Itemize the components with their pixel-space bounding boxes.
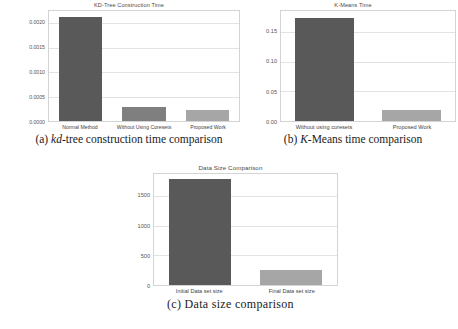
x-tick-labels-a: Normal MethodWithout Using CoresetsPropo… [48, 124, 240, 130]
bar-slot [246, 174, 338, 285]
bar-slot [112, 11, 175, 121]
bar [122, 107, 165, 121]
y-tick-label: 1000 [138, 223, 150, 229]
bar [260, 270, 322, 285]
bar-slot [154, 174, 246, 285]
y-tick-label: 0.0020 [29, 19, 45, 25]
caption-prefix-b: (b) [284, 133, 297, 145]
figure-panel-b: K-Means Time 0.000.050.100.15 Without us… [250, 2, 456, 164]
plot-area-b [280, 10, 456, 122]
y-axis-c: 050010001500 [123, 173, 153, 286]
x-tick-label: Without using coresets [280, 124, 368, 130]
y-tick-label: 0.15 [266, 28, 277, 34]
y-tick-label: 0.0000 [29, 119, 45, 125]
bar-slot [281, 11, 368, 121]
figure-caption-a: (a) kd-tree construction time comparison [18, 133, 240, 145]
x-axis-c: Initial Data set sizeFinal Data set size [123, 288, 338, 294]
caption-rest-a: -tree construction time comparison [62, 133, 223, 145]
plot-block-a: 0.00000.00050.00100.00150.0020 [18, 10, 240, 122]
plot-block-c: 050010001500 [123, 173, 338, 286]
bar [59, 17, 102, 121]
bar-slot [176, 11, 239, 121]
x-tick-label: Normal Method [48, 124, 112, 130]
y-tick-label: 0.10 [266, 58, 277, 64]
figure-panel-a: KD-Tree Construction Time 0.00000.00050.… [18, 2, 240, 164]
figure-caption-b: (b) K-Means time comparison [250, 133, 456, 145]
chart-title-b: K-Means Time [250, 2, 456, 8]
y-tick-label: 0.00 [266, 119, 277, 125]
caption-italic-b: K [300, 133, 308, 145]
y-tick-label: 0 [147, 283, 150, 289]
chart-title-a: KD-Tree Construction Time [18, 2, 240, 8]
bars-layer-b [281, 11, 455, 121]
caption-rest-b: -Means time comparison [308, 133, 422, 145]
chart-title-c: Data Size Comparison [123, 164, 338, 171]
caption-rest-c: Data size comparison [185, 297, 294, 311]
y-tick-label: 0.05 [266, 89, 277, 95]
caption-italic-a: kd [51, 133, 62, 145]
x-axis-a: Normal MethodWithout Using CoresetsPropo… [18, 124, 240, 130]
x-tick-label: Proposed Work [368, 124, 456, 130]
plot-area-c [153, 173, 338, 286]
x-tick-labels-b: Without using coresetsProposed Work [280, 124, 456, 130]
x-tick-label: Proposed Work [176, 124, 240, 130]
y-tick-label: 1500 [138, 192, 150, 198]
y-axis-b: 0.000.050.100.15 [250, 10, 280, 122]
bars-layer-a [49, 11, 239, 121]
caption-prefix-c: (c) [167, 297, 181, 311]
y-axis-a: 0.00000.00050.00100.00150.0020 [18, 10, 48, 122]
bar [295, 18, 354, 121]
y-tick-label: 0.0010 [29, 69, 45, 75]
y-tick-label: 500 [141, 253, 150, 259]
y-tick-label: 0.0015 [29, 44, 45, 50]
bar-slot [49, 11, 112, 121]
bar [382, 110, 441, 121]
plot-area-a [48, 10, 240, 122]
x-tick-label: Without Using Coresets [112, 124, 176, 130]
figure-panel-c: Data Size Comparison 050010001500 Initia… [123, 164, 338, 327]
plot-block-b: 0.000.050.100.15 [250, 10, 456, 122]
y-tick-label: 0.0005 [29, 94, 45, 100]
x-tick-label: Initial Data set size [153, 288, 246, 294]
figure-caption-c: (c) Data size comparison [123, 297, 338, 312]
bar [186, 110, 229, 121]
bar [169, 179, 231, 285]
x-axis-b: Without using coresetsProposed Work [250, 124, 456, 130]
x-tick-labels-c: Initial Data set sizeFinal Data set size [153, 288, 338, 294]
x-tick-label: Final Data set size [246, 288, 339, 294]
caption-prefix-a: (a) [35, 133, 48, 145]
bar-slot [368, 11, 455, 121]
bars-layer-c [154, 174, 337, 285]
